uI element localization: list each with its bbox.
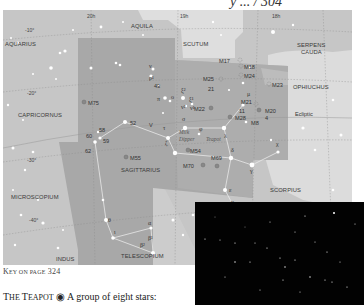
star-label-V: V <box>149 122 153 128</box>
ra-label-18h: 18h <box>272 13 281 19</box>
label-scorpius: SCORPIUS <box>270 187 301 193</box>
sky-photograph <box>195 202 364 305</box>
star-label-nu1: ν¹ <box>190 105 195 111</box>
label-sagittarius: SAGITTARIUS <box>121 167 160 173</box>
star-label-mu: μ <box>247 91 250 97</box>
dec-label-minus20: -20° <box>27 90 36 96</box>
star-label-xi2: ξ² <box>181 87 186 94</box>
label-microscopium: MICROSCOPIUM <box>11 194 59 200</box>
label-cauda: CAUDA <box>301 49 322 55</box>
star-label-11: 11 <box>239 108 245 114</box>
label-m54: M54 <box>190 148 201 154</box>
star-label-rho1: ρ¹ <box>149 75 154 81</box>
ra-label-20h: 20h <box>87 13 96 19</box>
dec-label-minus30: -30° <box>27 157 36 163</box>
star-label-59: 59 <box>103 138 109 144</box>
teapot-description: THE TEAPOT ◉ A group of eight stars: <box>3 291 157 302</box>
label-dipper: Dipper <box>178 136 195 142</box>
star-label-58: 58 <box>99 127 105 133</box>
dec-label-minus10: -10° <box>25 27 34 33</box>
star-label-60: 60 <box>86 133 92 139</box>
star-label-omicron: ο <box>171 94 174 100</box>
label-m75: M75 <box>88 100 99 106</box>
label-m18: M18 <box>244 64 255 70</box>
label-aquila: AQUILA <box>131 23 153 29</box>
star-label-62: 62 <box>85 148 91 154</box>
label-m69: M69 <box>211 155 222 161</box>
key-caption: KEY ON PAGE 324 <box>3 267 60 276</box>
star-label-phi: φ <box>199 126 203 132</box>
star-label-4: 4 <box>265 115 268 121</box>
label-m17: M17 <box>219 58 230 64</box>
label-teapot: Teapot <box>206 136 221 142</box>
star-label-gamma: γ <box>249 168 253 174</box>
page-header-fragment: y ... / 304 <box>230 0 282 10</box>
label-capricornus: CAPRICORNUS <box>18 112 62 118</box>
star-label-21: 21 <box>208 86 214 92</box>
star-label-beta1: β¹ <box>148 235 153 241</box>
star-label-xi1: ξ¹ <box>189 96 194 103</box>
label-m28: M28 <box>235 115 246 121</box>
photo-stars <box>195 202 364 305</box>
label-m25: M25 <box>203 76 214 82</box>
label-aquarius: AQUARIUS <box>5 41 36 47</box>
label-ophiuchus: OPHIUCHUS <box>293 84 329 90</box>
star-label-chi: χ <box>276 141 279 147</box>
star-label-theta: θ <box>108 217 111 223</box>
label-m22: M22 <box>194 106 205 112</box>
label-serpens: SERPENS <box>297 42 325 48</box>
star-label-nu: ν <box>149 63 152 69</box>
label-milk: Milk <box>178 129 190 135</box>
ra-label-19h: 19h <box>180 13 189 19</box>
label-telescopium: TELESCOPIUM <box>121 253 164 259</box>
star-label-pi: π <box>157 96 160 102</box>
label-m24: M24 <box>244 73 255 79</box>
star-label-delta: δ <box>231 147 234 153</box>
label-m21: M21 <box>241 99 252 105</box>
label-m23: M23 <box>272 82 283 88</box>
label-m70: M70 <box>183 163 194 169</box>
label-m8: M8 <box>251 120 259 126</box>
label-ecliptic: Ecliptic <box>295 111 313 117</box>
star-label-beta2: β² <box>140 242 145 248</box>
label-scutum: SCUTUM <box>183 41 208 47</box>
star-label-lambda: λ <box>224 133 227 139</box>
binoculars-icon: ◉ <box>56 291 65 302</box>
label-m55: M55 <box>130 155 141 161</box>
star-label-52: 52 <box>130 120 136 126</box>
star-label-nu2: ν² <box>181 104 186 110</box>
star-label-43: 43 <box>154 83 160 89</box>
label-m20: M20 <box>265 108 276 114</box>
label-indus: INDUS <box>56 256 75 262</box>
dec-label-minus40: -40° <box>29 217 38 223</box>
